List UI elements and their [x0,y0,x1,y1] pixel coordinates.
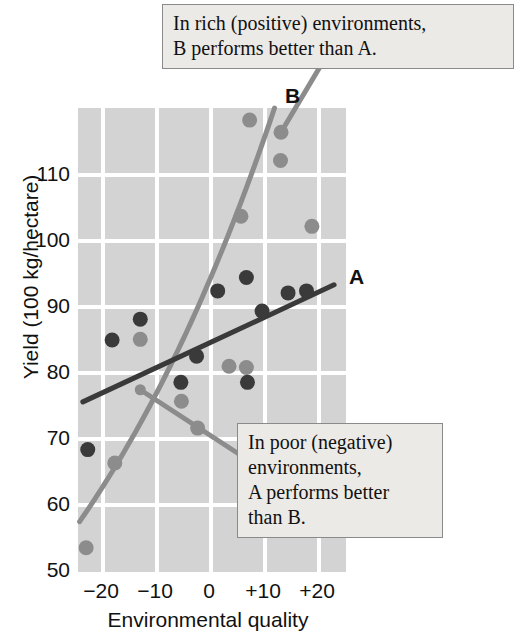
y-tick-label: 70 [10,427,70,448]
x-tick-label: 0 [179,580,239,601]
series-a-fit-line [83,285,334,402]
x-tick-label: −20 [71,580,131,601]
series-label-a: A [349,266,364,287]
callout-poor-environments: In poor (negative) environments, A perfo… [237,423,443,538]
y-tick-label: 60 [10,493,70,514]
x-tick-label: +20 [287,580,347,601]
x-tick-label: −10 [125,580,185,601]
callout-rich-environments: In rich (positive) environments, B perfo… [162,4,514,69]
callout-leader-lines [135,50,330,458]
y-tick-label: 50 [10,559,70,580]
series-label-b: B [285,85,300,106]
x-axis-label: Environmental quality [58,608,358,632]
y-axis-label: Yield (100 kg/hectare) [19,152,43,402]
x-tick-label: +10 [233,580,293,601]
